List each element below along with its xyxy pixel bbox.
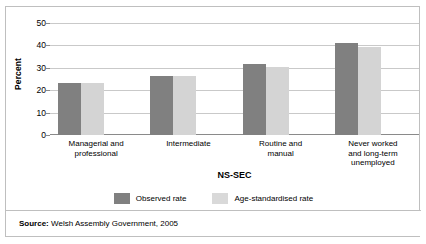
bar-groups — [50, 23, 419, 135]
legend-item: Age-standardised rate — [212, 193, 313, 204]
source-value: Welsh Assembly Government, 2005 — [49, 219, 178, 228]
source-label: Source: — [19, 219, 49, 228]
bar-observed — [150, 76, 173, 135]
y-tick-label: 30 — [24, 63, 46, 73]
chart-legend: Observed rateAge-standardised rate — [6, 187, 421, 209]
legend-item: Observed rate — [114, 193, 187, 204]
x-axis-category-labels: Managerial andprofessionalIntermediateRo… — [50, 139, 419, 173]
chart-figure: Percent 01020304050 Managerial andprofes… — [5, 6, 420, 237]
y-tick-label: 10 — [24, 108, 46, 118]
x-tick-label: Managerial andprofessional — [50, 139, 142, 158]
bar-observed — [58, 83, 81, 135]
source-bar: Source: Welsh Assembly Government, 2005 — [6, 210, 421, 236]
plot-area: Percent 01020304050 Managerial andprofes… — [6, 7, 421, 190]
light-gray-swatch — [212, 193, 228, 204]
bar-group — [235, 23, 327, 135]
y-axis-tick-labels: 01020304050 — [24, 23, 46, 135]
bar-age-standardised — [81, 83, 104, 135]
bar-age-standardised — [173, 76, 196, 135]
y-tick-label: 20 — [24, 85, 46, 95]
y-tick-label: 50 — [24, 18, 46, 28]
y-axis-tick — [46, 135, 50, 136]
x-tick-label: Never workedand long-termunemployed — [327, 139, 419, 168]
y-tick-label: 40 — [24, 40, 46, 50]
x-tick-label: Intermediate — [142, 139, 234, 149]
y-tick-label: 0 — [24, 130, 46, 140]
y-axis-title: Percent — [13, 44, 23, 104]
legend-label: Age-standardised rate — [234, 194, 313, 203]
bar-observed — [243, 64, 266, 135]
bar-age-standardised — [266, 67, 289, 135]
bar-group — [50, 23, 142, 135]
x-axis-title: NS-SEC — [50, 170, 419, 180]
bar-age-standardised — [358, 47, 381, 135]
bar-observed — [335, 43, 358, 135]
bar-group — [327, 23, 419, 135]
legend-label: Observed rate — [136, 194, 187, 203]
x-tick-label: Routine andmanual — [235, 139, 327, 158]
dark-gray-swatch — [114, 193, 130, 204]
bar-group — [142, 23, 234, 135]
source-note: Source: Welsh Assembly Government, 2005 — [6, 219, 178, 228]
